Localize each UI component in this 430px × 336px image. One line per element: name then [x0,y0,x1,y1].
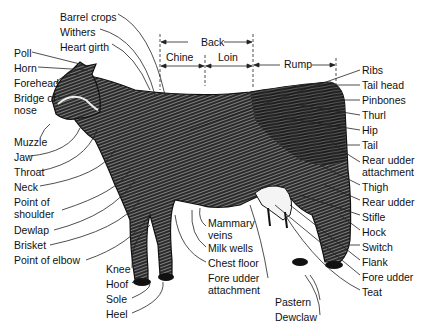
label-ribs: Ribs [362,64,383,76]
label-point-of-elbow: Point of elbow [14,254,80,266]
label-tail: Tail [362,139,378,151]
label-dewlap: Dewlap [14,224,49,236]
label-fore-udder-attachment: Fore udder attachment [208,272,272,296]
label-thigh: Thigh [362,181,388,193]
label-milk-wells: Milk wells [208,242,253,254]
label-horn: Horn [14,62,37,74]
region-label-loin: Loin [218,51,238,63]
label-muzzle: Muzzle [14,136,47,148]
label-flank: Flank [362,256,388,268]
label-sole: Sole [106,293,127,305]
label-hip: Hip [362,124,378,136]
label-knee: Knee [106,263,131,275]
label-fore-udder: Fore udder [362,271,413,283]
label-pinbones: Pinbones [362,94,406,106]
label-hock: Hock [362,226,386,238]
label-switch: Switch [362,241,393,253]
label-teat: Teat [362,286,382,298]
label-mammary-veins: Mammary veins [208,217,262,241]
label-stifle: Stifle [362,211,385,223]
label-dewclaw: Dewclaw [275,311,317,323]
region-label-rump: Rump [284,58,312,70]
region-label-chine: Chine [166,51,193,63]
label-rear-udder: Rear udder [362,196,415,208]
label-thurl: Thurl [362,109,386,121]
label-barrel-crops: Barrel crops [60,11,117,23]
region-label-back: Back [201,36,224,48]
label-hoof: Hoof [106,278,128,290]
label-withers: Withers [60,26,96,38]
label-heart-girth: Heart girth [60,41,109,53]
label-brisket: Brisket [14,239,46,251]
label-tail-head: Tail head [362,79,404,91]
label-rear-udder-attachment: Rear udder attachment [362,154,428,178]
label-forehead: Forehead [14,77,59,89]
label-pastern: Pastern [275,296,311,308]
label-jaw: Jaw [14,151,33,163]
label-throat: Throat [14,166,44,178]
label-point-of-shoulder: Point of shoulder [14,196,60,220]
cow-anatomy-diagram: Back Chine Loin Rump Barrel crops Wither… [0,0,430,336]
label-neck: Neck [14,181,38,193]
label-chest-floor: Chest floor [208,257,259,269]
label-poll: Poll [14,47,32,59]
label-bridge-of-nose: Bridge of nose [14,92,60,116]
label-heel: Heel [106,308,128,320]
